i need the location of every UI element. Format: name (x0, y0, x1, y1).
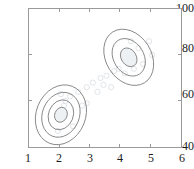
x-axis-tick-mark-4 (119, 144, 120, 147)
scatter-point (146, 39, 151, 44)
x-axis-tick-mark-5 (150, 144, 151, 147)
scatter-point (104, 73, 109, 78)
scatter-point (122, 71, 127, 76)
x-axis-tick-label-2: 2 (49, 152, 69, 164)
scatter-point (131, 66, 136, 71)
contour-ellipse (52, 105, 69, 124)
x-axis-tick-mark-top-4 (119, 9, 120, 12)
y-axis-tick-mark-right-60 (178, 100, 181, 101)
plot-area (28, 8, 182, 148)
scatter-point (84, 85, 89, 90)
x-axis-tick-mark-3 (89, 144, 90, 147)
contour-scatter-chart: 100 80 60 40 1 2 3 4 5 6 (0, 0, 194, 169)
scatter-points-layer (55, 39, 154, 134)
y-axis-tick-mark-80 (29, 54, 32, 55)
contour-group-cluster-1 (29, 77, 95, 147)
x-axis-tick-mark-2 (59, 144, 60, 147)
scatter-point (101, 82, 106, 87)
x-axis-tick-label-5: 5 (141, 152, 161, 164)
scatter-point (136, 46, 141, 51)
contour-ellipse (117, 45, 140, 70)
x-axis-tick-mark-top-5 (150, 9, 151, 12)
x-axis-tick-mark-top-3 (89, 9, 90, 12)
x-axis-tick-label-4: 4 (110, 152, 130, 164)
plot-canvas (29, 9, 181, 147)
x-axis-tick-mark-top-2 (59, 9, 60, 12)
scatter-point (90, 80, 95, 85)
scatter-point (108, 85, 113, 90)
scatter-point (95, 89, 100, 94)
scatter-point (98, 75, 103, 80)
contour-group-cluster-2 (94, 20, 164, 95)
y-axis-tick-mark-60 (29, 100, 32, 101)
x-axis-tick-label-3: 3 (80, 152, 100, 164)
contour-ellipses-layer (29, 20, 164, 147)
x-axis-tick-label-6: 6 (172, 152, 192, 164)
y-axis-tick-mark-right-80 (178, 54, 181, 55)
x-axis-tick-label-1: 1 (18, 152, 38, 164)
